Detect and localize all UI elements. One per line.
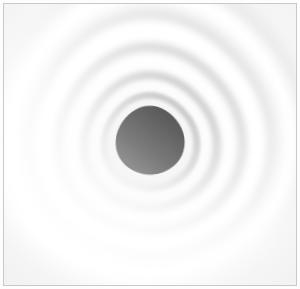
image-frame: Concentric rounded triangular rings rece… [3,3,297,286]
ring-stack [4,4,296,285]
nested-triangle-illustration [4,4,296,285]
artwork-canvas [4,4,296,285]
artwork-root: Concentric rounded triangular rings rece… [0,0,300,289]
